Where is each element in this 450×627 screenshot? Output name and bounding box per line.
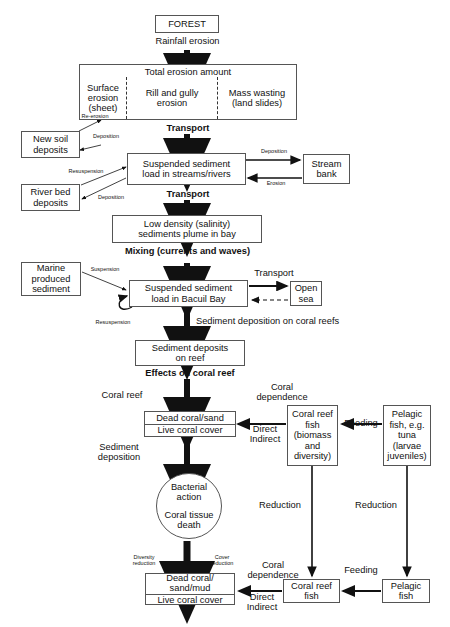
edge-label-feeding-1: Feeding [338, 418, 384, 428]
edge-label-effects-on-coral-reef: Effects on coral reef [112, 368, 268, 378]
node-pelagic-fish-2: Pelagic fish [382, 579, 430, 603]
edge-label-coral-reef-left: Coral reef [88, 390, 156, 400]
edge-label-coral-dependence-1: Coral dependence [246, 382, 318, 403]
node-coral-reef-fish-biomass: Coral reef fish (biomass and diversity) [287, 405, 338, 466]
edge-label-mixing: Mixing (currents and waves) [90, 246, 285, 256]
edge-label-transport-2: Transport [155, 189, 221, 199]
edge-label-deposition-riverbed: Deposition [89, 194, 133, 200]
edge-label-transport-1: Transport [155, 123, 221, 133]
node-suspended-sediment-streams: Suspended sediment load in streams/river… [127, 153, 246, 185]
edge-label-coral-dependence-2: Coral dependence [236, 560, 310, 581]
node-pelagic-fish-tuna: Pelagic fish, e.g. tuna (larvae juvenile… [383, 405, 431, 466]
node-rill-gully-erosion: Rill and gully erosion [126, 77, 218, 119]
node-forest: FOREST [155, 15, 219, 33]
node-sediment-deposits-on-reef: Sediment deposits on reef [135, 340, 245, 366]
node-dead-coral-sand-mud: Dead coral/ sand/mud [146, 573, 234, 594]
edge-label-rainfall-erosion: Rainfall erosion [130, 36, 245, 46]
edge-label-suspension-marine: Suspension [83, 266, 127, 272]
edge-label-transport-3: Transport [243, 268, 305, 278]
node-forest-label: FOREST [168, 19, 206, 29]
node-suspended-sediment-bacuil-bay: Suspended sediment load in Bacuil Bay [129, 280, 248, 307]
node-dead-coral-mud-stack: Dead coral/ sand/mud Live coral cover [145, 573, 235, 605]
node-new-soil-deposits: New soil deposits [21, 131, 80, 158]
node-open-sea: Open sea [290, 281, 322, 306]
flow-diagram: FOREST Rainfall erosion Total erosion am… [0, 0, 450, 627]
edge-label-deposition-newsoil: Deposition [84, 133, 128, 139]
edge-label-diversity-reduction: Diversity reduction [118, 554, 170, 566]
node-live-coral-cover-1: Live coral cover [145, 425, 235, 437]
edge-label-sediment-deposition-left: Sediment deposition [84, 442, 154, 463]
edge-label-reduction-2: Reduction [344, 500, 408, 510]
node-stream-bank: Stream bank [303, 154, 350, 184]
node-live-coral-cover-2: Live coral cover [146, 595, 234, 605]
edge-label-resuspension-riverbed: Resuspension [60, 168, 112, 174]
edge-label-re-erosion: Re-erosion [73, 113, 117, 119]
edge-label-direct-indirect-1: Direct Indirect [240, 424, 290, 445]
node-bacterial-action: Bacterial action [171, 482, 207, 503]
edge-label-erosion-streambank: Erosion [256, 180, 296, 186]
node-mass-wasting: Mass wasting (land slides) [218, 77, 296, 119]
edge-label-reduction-1: Reduction [248, 500, 312, 510]
node-marine-produced-sediment: Marine produced sediment [21, 262, 81, 296]
edge-label-sediment-deposition-reefs: Sediment deposition on coral reefs [196, 316, 396, 326]
edge-label-feeding-2: Feeding [338, 565, 384, 575]
node-total-erosion: Total erosion amount Surface erosion (sh… [79, 64, 297, 120]
node-coral-reef-fish-2: Coral reef fish [283, 579, 340, 603]
edge-label-direct-indirect-2: Direct Indirect [237, 592, 287, 613]
node-river-bed-deposits: River bed deposits [21, 184, 80, 211]
node-total-erosion-header: Total erosion amount [145, 65, 231, 77]
edge-label-deposition-stream: Deposition [250, 148, 298, 154]
node-dead-coral-sand: Dead coral/sand [145, 412, 235, 424]
node-low-density-plume: Low density (salinity) sediments plume i… [112, 215, 262, 243]
node-coral-tissue-death: Coral tissue death [164, 510, 213, 531]
edge-label-resuspension-bay: Resuspension [86, 319, 140, 325]
node-bacterial-coral-death-circle: Bacterial action Coral tissue death [156, 473, 222, 539]
node-dead-coral-stack: Dead coral/sand Live coral cover [144, 411, 236, 437]
